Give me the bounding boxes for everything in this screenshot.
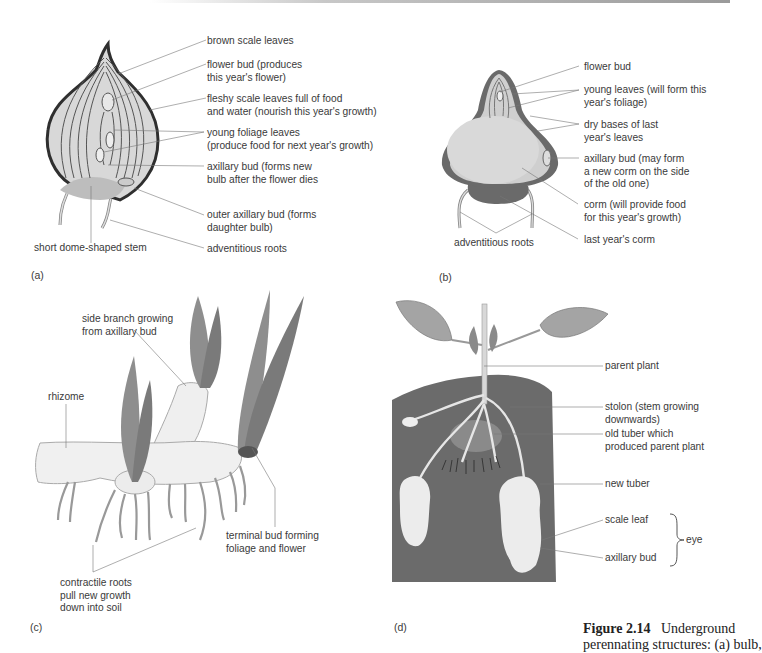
panel-id-c: (c)	[30, 621, 42, 633]
label-short-dome-shaped-stem: short dome-shaped stem	[34, 242, 147, 255]
figure-caption: Figure 2.14 Underground perennating stru…	[583, 621, 743, 653]
caption-line2: perennating structures: (a) bulb,	[583, 637, 743, 653]
label-brown-scale-leaves: brown scale leaves	[207, 35, 294, 48]
caption-line1: Underground	[661, 621, 735, 636]
figure-number: Figure 2.14	[583, 621, 650, 636]
label-dry-bases: dry bases of last year's leaves	[584, 119, 658, 144]
label-stolon: stolon (stem growing downwards)	[605, 401, 699, 426]
label-contractile-roots: contractile roots pull new growth down i…	[60, 577, 132, 615]
label-rhizome: rhizome	[48, 391, 84, 404]
label-terminal-bud: terminal bud forming foliage and flower	[226, 530, 319, 555]
label-outer-axillary-bud: outer axillary bud (forms daughter bulb)	[207, 209, 316, 234]
label-flower-bud: flower bud (produces this year's flower)	[207, 59, 302, 84]
panel-id-a: (a)	[31, 269, 44, 281]
label-axillary-bud-d: axillary bud	[605, 552, 657, 565]
tuber-illustration	[392, 301, 608, 582]
panel-id-d: (d)	[394, 621, 407, 633]
label-eye: eye	[686, 534, 702, 547]
label-fleshy-scale-leaves: fleshy scale leaves full of food and wat…	[207, 93, 377, 118]
label-last-years-corm: last year's corm	[584, 234, 655, 247]
label-adventitious-roots-b: adventitious roots	[454, 237, 534, 250]
bulb-illustration	[47, 40, 206, 248]
label-corm: corm (will provide food for this year's …	[584, 199, 686, 224]
label-axillary-bud-b: axillary bud (may form a new corm on the…	[584, 153, 689, 191]
brace-icon	[668, 512, 688, 568]
label-old-tuber: old tuber which produced parent plant	[605, 428, 704, 453]
label-flower-bud-b: flower bud	[584, 61, 631, 74]
label-scale-leaf: scale leaf	[605, 514, 648, 527]
label-young-leaves: young leaves (will form this year's foli…	[584, 84, 706, 109]
label-adventitious-roots-a: adventitious roots	[207, 243, 287, 256]
label-axillary-bud-a: axillary bud (forms new bulb after the f…	[207, 161, 318, 186]
panel-id-b: (b)	[439, 271, 452, 283]
label-parent-plant: parent plant	[605, 360, 659, 373]
label-side-branch: side branch growing from axillary bud	[82, 313, 173, 338]
label-young-foliage-leaves: young foliage leaves (produce food for n…	[207, 127, 373, 152]
corm-illustration	[442, 66, 579, 239]
label-new-tuber: new tuber	[605, 478, 650, 491]
